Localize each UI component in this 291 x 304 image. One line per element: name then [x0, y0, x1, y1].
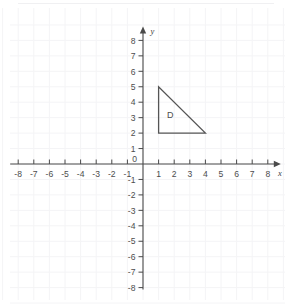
- origin-label: 0: [132, 154, 137, 164]
- x-tick-label: -8: [14, 169, 22, 179]
- x-tick-label: 4: [203, 169, 208, 179]
- x-tick-label: -6: [46, 169, 54, 179]
- y-tick-label: -2: [128, 190, 136, 200]
- x-tick-label: 7: [250, 169, 255, 179]
- coordinate-plane-figure: -8-7-6-5-4-3-2-11234567887654321-1-2-3-4…: [0, 0, 291, 304]
- x-tick-label: 5: [219, 169, 224, 179]
- x-tick-label: 6: [234, 169, 239, 179]
- y-tick-label: 3: [131, 113, 136, 123]
- y-tick-label: -1: [128, 175, 136, 185]
- x-axis-label: x: [277, 168, 282, 178]
- x-tick-label: -7: [30, 169, 38, 179]
- y-tick-label: 6: [131, 67, 136, 77]
- x-tick-label: -3: [92, 169, 100, 179]
- grid-lines: [3, 8, 285, 303]
- y-tick-label: -4: [128, 221, 136, 231]
- cartesian-plot: -8-7-6-5-4-3-2-11234567887654321-1-2-3-4…: [0, 0, 291, 304]
- y-tick-label: -7: [128, 267, 136, 277]
- y-tick-label: 7: [131, 51, 136, 61]
- x-tick-label: -4: [77, 169, 85, 179]
- x-tick-label: -2: [108, 169, 116, 179]
- y-tick-label: -8: [128, 283, 136, 293]
- x-tick-label: 2: [172, 169, 177, 179]
- x-tick-label: 3: [187, 169, 192, 179]
- shape-d: [159, 87, 206, 133]
- y-tick-label: 8: [131, 36, 136, 46]
- plotted-shapes: [159, 87, 206, 133]
- x-tick-label: 1: [156, 169, 161, 179]
- y-tick-label: 1: [131, 144, 136, 154]
- y-tick-label: 2: [131, 128, 136, 138]
- axis-lines: [10, 26, 281, 289]
- shape-label-d: D: [167, 110, 174, 120]
- axis-tick-labels: -8-7-6-5-4-3-2-11234567887654321-1-2-3-4…: [14, 26, 282, 292]
- x-tick-label: 8: [265, 169, 270, 179]
- y-tick-label: -5: [128, 236, 136, 246]
- y-tick-label: 4: [131, 97, 136, 107]
- x-tick-label: -5: [61, 169, 69, 179]
- y-tick-label: 5: [131, 82, 136, 92]
- y-tick-label: -6: [128, 252, 136, 262]
- y-axis-label: y: [150, 26, 155, 36]
- y-tick-label: -3: [128, 206, 136, 216]
